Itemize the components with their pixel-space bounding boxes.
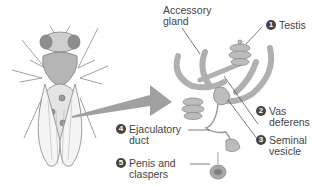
number-badge-2: 2 bbox=[256, 106, 266, 116]
number-badge-1: 1 bbox=[266, 20, 276, 30]
label-testis: 1Testis bbox=[266, 20, 306, 31]
fly-illustration bbox=[12, 26, 108, 166]
label-penis-claspers: 5Penis and claspers bbox=[116, 158, 176, 180]
number-badge-5: 5 bbox=[116, 158, 126, 168]
label-vas-deferens: 2Vas deferens bbox=[256, 106, 310, 128]
label-accessory-gland: Accessory gland bbox=[163, 5, 211, 27]
number-badge-3: 3 bbox=[256, 135, 266, 145]
label-ejaculatory-duct: 4Ejaculatory duct bbox=[116, 124, 181, 146]
diagram-canvas: Accessory gland 1Testis 2Vas deferens 3S… bbox=[0, 0, 317, 190]
magnify-arrow bbox=[72, 85, 172, 118]
label-seminal-vesicle: 3Seminal vesicle bbox=[256, 135, 307, 157]
number-badge-4: 4 bbox=[116, 124, 126, 134]
